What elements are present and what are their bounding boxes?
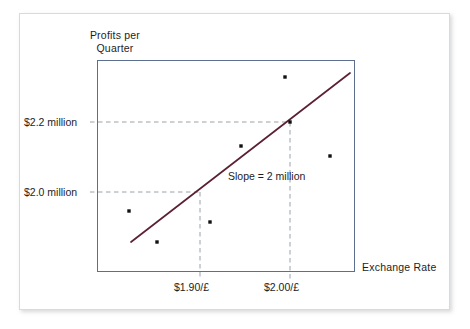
y-axis-title-line2: Quarter [72, 42, 158, 55]
plot-area [97, 60, 355, 272]
y-tick-label-2-0: $2.0 million [24, 186, 77, 198]
x-tick-label-2-00: $2.00/£ [264, 281, 299, 293]
y-tick-label-2-2: $2.2 million [24, 116, 77, 128]
slope-annotation: Slope = 2 million [228, 170, 305, 182]
x-tick-label-1-90: $1.90/£ [174, 281, 209, 293]
x-axis-title: Exchange Rate [362, 261, 437, 274]
figure-root: Profits perQuarter Exchange Rate $2.2 mi… [0, 0, 470, 329]
y-axis-title-line1: Profits per [90, 29, 140, 41]
y-axis-title: Profits perQuarter [72, 29, 158, 54]
